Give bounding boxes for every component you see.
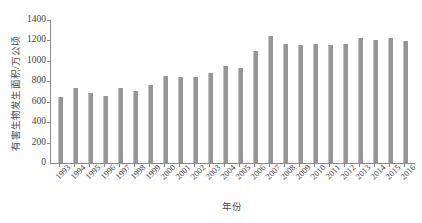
bar	[403, 41, 408, 163]
bar	[388, 38, 393, 163]
bar-slot	[398, 20, 413, 163]
bar	[298, 45, 303, 163]
x-label-slot: 2014	[367, 168, 382, 202]
x-label-slot: 2002	[187, 168, 202, 202]
x-label-slot: 2010	[307, 168, 322, 202]
bar-slot	[368, 20, 383, 163]
bar	[88, 93, 93, 163]
bar	[148, 85, 153, 163]
bar-slot	[68, 20, 83, 163]
bar-chart: 有害生物发生面积/万公顷 1400120010008006004002000 1…	[0, 0, 422, 223]
bar	[223, 66, 228, 163]
x-label-slot: 2003	[202, 168, 217, 202]
bar-slot	[248, 20, 263, 163]
bar	[193, 77, 198, 163]
bar-slot	[53, 20, 68, 163]
bar	[58, 97, 63, 163]
bar-slot	[308, 20, 323, 163]
bar-slot	[188, 20, 203, 163]
y-tick-label: 400	[20, 117, 46, 127]
bar-slot	[83, 20, 98, 163]
bar	[343, 44, 348, 163]
x-label-slot: 2015	[382, 168, 397, 202]
bar	[358, 38, 363, 163]
bar	[73, 88, 78, 163]
y-tick-mark	[47, 20, 51, 21]
bar	[178, 77, 183, 163]
bar	[133, 91, 138, 163]
bar-slot	[158, 20, 173, 163]
y-tick-label: 200	[20, 138, 46, 148]
x-label-slot: 1997	[112, 168, 127, 202]
x-label-slot: 1995	[82, 168, 97, 202]
y-tick-label: 1400	[20, 15, 46, 25]
bar-slot	[323, 20, 338, 163]
bar	[118, 88, 123, 163]
x-label-slot: 1993	[52, 168, 67, 202]
bar-slot	[143, 20, 158, 163]
x-label-slot: 2004	[217, 168, 232, 202]
x-label-slot: 2009	[292, 168, 307, 202]
y-tick-label: 800	[20, 76, 46, 86]
bar	[163, 76, 168, 163]
bar	[238, 68, 243, 164]
bar	[253, 51, 258, 163]
y-tick-mark	[47, 61, 51, 62]
x-label-slot: 2000	[157, 168, 172, 202]
x-label-slot: 2011	[322, 168, 337, 202]
bar	[373, 40, 378, 163]
x-label-slot: 2012	[337, 168, 352, 202]
y-tick-label: 1200	[20, 35, 46, 45]
bar-slot	[98, 20, 113, 163]
bar-slot	[263, 20, 278, 163]
bar-slot	[338, 20, 353, 163]
bar-slot	[113, 20, 128, 163]
y-axis-tick-labels: 1400120010008006004002000	[20, 0, 46, 223]
bar-slot	[383, 20, 398, 163]
x-label-slot: 2001	[172, 168, 187, 202]
x-label-slot: 2007	[262, 168, 277, 202]
bar	[268, 36, 273, 163]
bar-series	[51, 20, 415, 163]
bar-slot	[128, 20, 143, 163]
x-label-slot: 1996	[97, 168, 112, 202]
y-tick-mark	[47, 102, 51, 103]
y-tick-mark	[47, 122, 51, 123]
y-tick-label: 0	[20, 158, 46, 168]
y-tick-label: 1000	[20, 56, 46, 66]
y-tick-mark	[47, 143, 51, 144]
y-tick-label: 600	[20, 97, 46, 107]
x-label-slot: 2008	[277, 168, 292, 202]
y-tick-mark	[47, 40, 51, 41]
bar-slot	[173, 20, 188, 163]
x-axis-title: 年份	[50, 201, 414, 213]
y-tick-mark	[47, 81, 51, 82]
bar	[313, 44, 318, 163]
x-label-slot: 2005	[232, 168, 247, 202]
bar-slot	[203, 20, 218, 163]
bar	[208, 73, 213, 163]
x-label-slot: 2016	[397, 168, 412, 202]
bar-slot	[278, 20, 293, 163]
x-label-slot: 1998	[127, 168, 142, 202]
bar	[328, 45, 333, 163]
x-label-slot: 2013	[352, 168, 367, 202]
x-label-slot: 1994	[67, 168, 82, 202]
bar-slot	[233, 20, 248, 163]
bar	[283, 44, 288, 163]
bar	[103, 96, 108, 163]
bar-slot	[293, 20, 308, 163]
bar-slot	[218, 20, 233, 163]
plot-area	[50, 20, 415, 164]
x-axis-tick-labels: 1993199419951996199719981999200020012002…	[50, 168, 414, 202]
x-label-slot: 1999	[142, 168, 157, 202]
bar-slot	[353, 20, 368, 163]
x-label-slot: 2006	[247, 168, 262, 202]
